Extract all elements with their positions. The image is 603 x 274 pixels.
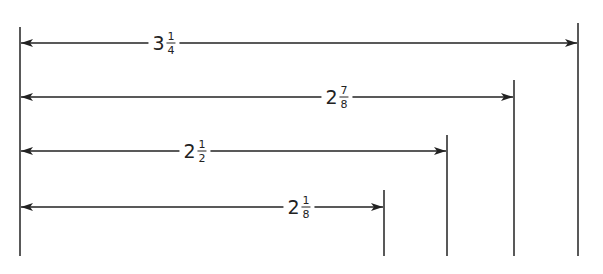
fraction-numerator: 1 — [167, 31, 176, 44]
label-whole-number: 2 — [325, 88, 337, 107]
fraction-numerator: 1 — [198, 139, 207, 152]
label-fraction: 14 — [167, 31, 176, 56]
dimension-label: 212 — [179, 139, 210, 164]
dimension-label: 218 — [283, 195, 314, 220]
dimension-label: 314 — [148, 31, 179, 56]
label-whole-number: 2 — [287, 198, 299, 217]
label-fraction: 78 — [340, 85, 349, 110]
fraction-denominator: 2 — [199, 152, 206, 164]
label-fraction: 18 — [302, 195, 311, 220]
fraction-denominator: 8 — [303, 208, 310, 220]
dimension-label: 278 — [321, 85, 352, 110]
label-fraction: 12 — [198, 139, 207, 164]
label-whole-number: 3 — [152, 34, 164, 53]
fraction-denominator: 8 — [341, 98, 348, 110]
label-whole-number: 2 — [183, 142, 195, 161]
fraction-numerator: 7 — [340, 85, 349, 98]
fraction-numerator: 1 — [302, 195, 311, 208]
dimension-diagram — [0, 0, 603, 274]
fraction-denominator: 4 — [168, 44, 175, 56]
